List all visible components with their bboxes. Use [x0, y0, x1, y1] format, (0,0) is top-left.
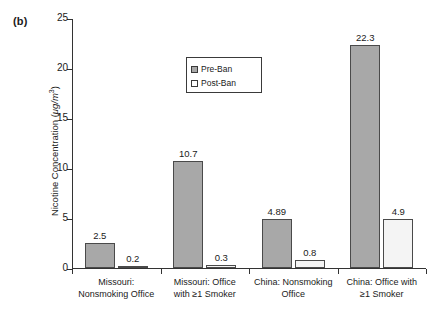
bar-post-ban — [295, 260, 325, 268]
y-axis-tick-label: 10 — [57, 162, 68, 173]
bar-value-label: 10.7 — [165, 148, 211, 159]
x-axis-tick-mark — [426, 269, 427, 274]
x-axis-category-label: China: Office with≥1 Smoker — [326, 276, 439, 300]
bar-value-label: 4.89 — [254, 206, 300, 217]
figure-panel-b: (b) Nicotine Concentration (μg/m3) 05101… — [0, 0, 440, 315]
bar-value-label: 0.8 — [287, 247, 333, 258]
bar-post-ban — [118, 266, 148, 268]
legend: Pre-Ban Post-Ban — [186, 57, 262, 93]
bar-value-label: 0.2 — [110, 253, 156, 264]
y-axis-tick-label: 25 — [57, 12, 68, 23]
panel-label: (b) — [13, 15, 28, 27]
y-axis-tick-label: 5 — [62, 212, 68, 223]
plot-area: 0510152025 2.50.210.70.34.890.822.34.9 M… — [72, 19, 426, 269]
y-axis-tick-label: 0 — [62, 262, 68, 273]
legend-item-pre-ban: Pre-Ban — [191, 62, 261, 76]
y-axis-title: Nicotine Concentration (μg/m3) — [48, 41, 60, 261]
x-axis-category-label-line: ≥1 Smoker — [326, 288, 439, 300]
y-axis-tick-label: 20 — [57, 62, 68, 73]
y-axis-line — [72, 19, 73, 269]
bar-pre-ban — [350, 45, 380, 268]
x-axis-tick-mark — [249, 269, 250, 274]
legend-swatch-post-ban-icon — [191, 80, 198, 87]
x-axis-tick-mark — [72, 269, 73, 274]
bar-value-label: 2.5 — [77, 230, 123, 241]
bar-value-label: 4.9 — [375, 206, 421, 217]
y-axis-tick-label: 15 — [57, 112, 68, 123]
bar-pre-ban — [262, 219, 292, 268]
x-axis-tick-mark — [161, 269, 162, 274]
x-axis-category-label-line: China: Office with — [326, 276, 439, 288]
y-axis-title-exponent: 3 — [48, 89, 55, 93]
x-axis-tick-mark — [338, 269, 339, 274]
legend-item-post-ban: Post-Ban — [191, 76, 261, 90]
legend-swatch-pre-ban-icon — [191, 66, 198, 73]
bar-value-label: 22.3 — [342, 32, 388, 43]
legend-label-post-ban: Post-Ban — [201, 79, 236, 88]
legend-label-pre-ban: Pre-Ban — [201, 65, 232, 74]
bar-post-ban — [206, 265, 236, 268]
bar-value-label: 0.3 — [198, 252, 244, 263]
y-axis-title-close: ) — [49, 86, 60, 89]
bar-post-ban — [383, 219, 413, 268]
